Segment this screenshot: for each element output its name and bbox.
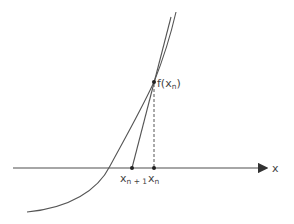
tangent-line xyxy=(132,17,171,168)
label-f-xn: f(xn) xyxy=(157,77,181,91)
newton-method-diagram: f(xn) xn + 1 xn x xyxy=(0,0,294,224)
point-xn1 xyxy=(130,166,134,170)
point-xn xyxy=(152,166,156,170)
label-xn1: xn + 1 xyxy=(120,172,147,186)
point-f-xn xyxy=(152,80,156,84)
label-xn: xn xyxy=(148,172,160,186)
label-x-axis: x xyxy=(272,162,279,175)
diagram-canvas: f(xn) xn + 1 xn x xyxy=(0,0,294,224)
